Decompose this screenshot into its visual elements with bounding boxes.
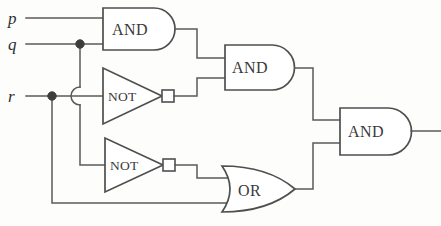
gate-and2-label: AND <box>232 59 268 76</box>
wire-q-branch-to-not2 <box>80 105 105 165</box>
junction-dot-r <box>48 92 56 100</box>
not1-inverter-bubble <box>162 90 174 102</box>
circuit-canvas: AND NOT NOT AND OR AND p q r <box>0 0 441 226</box>
logic-circuit-diagram: AND NOT NOT AND OR AND p q r <box>0 0 441 226</box>
wire-or1-to-and3 <box>295 143 340 189</box>
junction-dot-q <box>76 40 84 48</box>
gate-or1-label: OR <box>238 182 261 199</box>
input-label-r: r <box>8 87 15 106</box>
wire-and1-to-and2 <box>175 29 225 58</box>
gate-not2-label: NOT <box>110 158 139 173</box>
gate-and1-label: AND <box>112 21 148 38</box>
input-label-q: q <box>8 35 17 54</box>
wire-and2-to-and3 <box>295 68 340 120</box>
wire-not1-to-and2 <box>174 78 225 96</box>
gate-not1-label: NOT <box>108 89 137 104</box>
input-label-p: p <box>7 9 17 28</box>
not2-inverter-bubble <box>163 159 175 171</box>
gate-and3-label: AND <box>348 123 384 140</box>
